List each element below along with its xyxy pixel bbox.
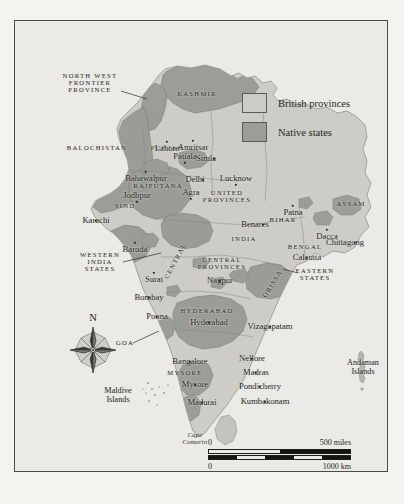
scale-km-end: 1000 km <box>323 462 351 472</box>
scale-track-km <box>208 455 351 460</box>
scale-miles-start: 0 <box>208 438 212 448</box>
compass-rose-icon <box>67 325 119 375</box>
compass-rose: N <box>67 313 119 375</box>
legend-item-native-states: Native states <box>242 122 382 142</box>
scale-km-start: 0 <box>208 462 212 472</box>
legend-label-native-states: Native states <box>278 127 332 138</box>
scale-miles-end: 500 miles <box>320 438 351 448</box>
legend-swatch-native-states <box>242 122 267 142</box>
map-canvas <box>15 21 387 471</box>
scale-km-labels: 0 1000 km <box>208 462 351 472</box>
compass-north-label: N <box>89 312 97 323</box>
legend-swatch-british-provinces <box>242 93 267 113</box>
scale-track-miles <box>208 449 351 454</box>
scale-bar: 0 500 miles 0 1000 km <box>208 438 351 471</box>
legend-label-british-provinces: British provinces <box>278 98 350 109</box>
legend-item-british-provinces: British provinces <box>242 93 382 113</box>
map-figure: The British Raj and Princely States, 190… <box>14 20 388 472</box>
scale-miles-labels: 0 500 miles <box>208 438 351 448</box>
map-legend: British provinces Native states <box>242 93 382 151</box>
